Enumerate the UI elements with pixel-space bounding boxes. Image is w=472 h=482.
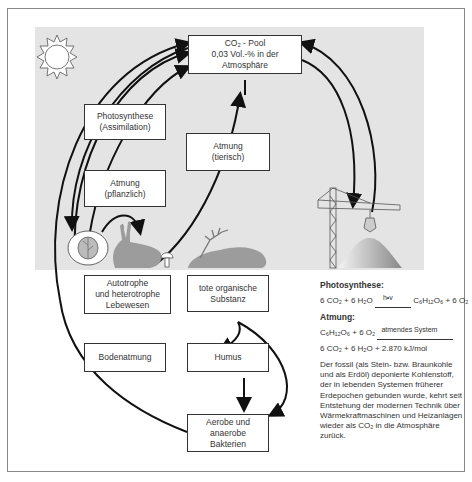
cabbage-icon <box>68 231 108 265</box>
co2-pool-box: CO₂ - Pool 0,03 Vol.-% in der Atmosphäre <box>188 35 302 74</box>
fossil-carbon-paragraph: Der fossil (als Stein- bzw. Braunkohle u… <box>320 360 465 442</box>
atmung-equation-line1: C₆H₁₂O₆ + 6 O₂ atmendes System <box>320 328 465 337</box>
atmung-tierisch-box: Atmung (tierisch) <box>186 133 270 171</box>
bakterien-box: Aerobe und anaerobe Bakterien <box>187 414 269 452</box>
photosynthese-box: Photosynthese (Assimilation) <box>84 104 166 140</box>
tote-substanz-box: tote organische Substanz <box>187 275 269 312</box>
atmung-pflanzlich-box: Atmung (pflanzlich) <box>84 170 166 207</box>
atmung-heading: Atmung: <box>320 312 465 322</box>
atmung-equation-line2: 6 CO₂ + 6 H₂O + 2.870 kJ/mol <box>320 344 465 353</box>
co2-pool-title: CO₂ - Pool <box>225 38 266 49</box>
sun-icon <box>37 35 77 79</box>
bodenatmung-box: Bodenatmung <box>84 343 166 372</box>
photosynthese-equation: 6 CO₂ + 6 H₂O h•v C₆H₁₂O₆ + 6 O₂ <box>320 296 465 305</box>
photosynthese-heading: Photosynthese: <box>320 280 465 290</box>
equations-panel: Photosynthese: 6 CO₂ + 6 H₂O h•v C₆H₁₂O₆… <box>320 280 465 442</box>
humus-box: Humus <box>187 343 269 372</box>
coal-pile-icon <box>338 238 402 268</box>
rabbit-icon <box>113 221 162 268</box>
lebewesen-box: Autotrophe und heterotrophe Lebewesen <box>84 275 171 314</box>
mushroom-icon <box>161 253 173 267</box>
deer-carcass-icon <box>188 228 266 268</box>
